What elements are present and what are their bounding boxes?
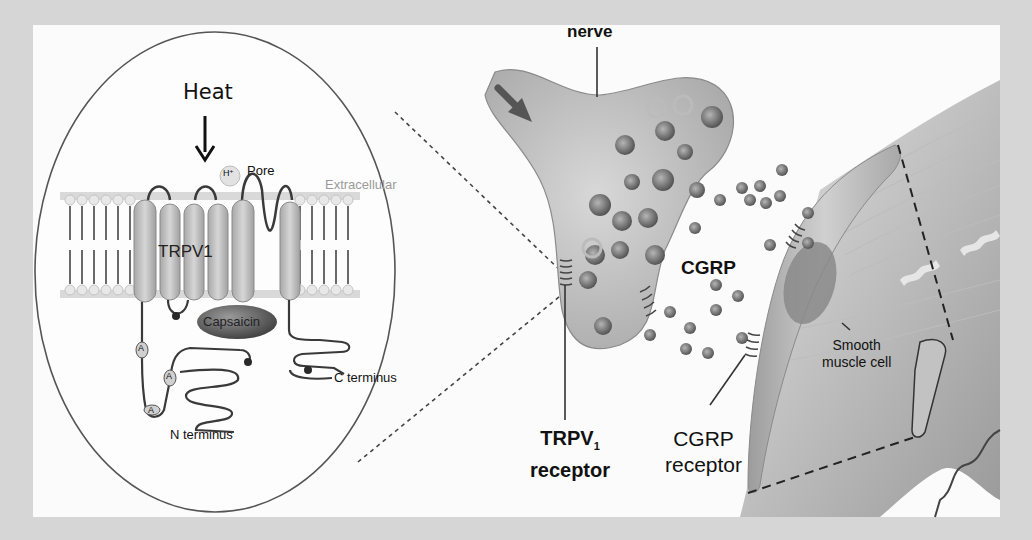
trpv1-receptor-subscript: 1 (594, 440, 600, 452)
capsaicin-label: Capsaicin (203, 314, 260, 329)
extracellular-label: Extracellular (325, 177, 397, 192)
ankyrin-label-2: A (166, 371, 172, 381)
smooth-muscle-label-line2: muscle cell (822, 354, 891, 370)
ankyrin-label-3: A (148, 405, 154, 415)
cgrp-label: CGRP (681, 257, 736, 279)
heat-label: Heat (183, 80, 233, 104)
proton-label: H⁺ (223, 168, 235, 178)
cgrp-receptor-label: CGRP receptor (665, 426, 742, 478)
trpv1-receptor-label-line1: TRPV (540, 427, 593, 449)
c-terminus-label: C terminus (334, 370, 397, 385)
cgrp-receptor-label-line1: CGRP (673, 427, 734, 450)
smooth-muscle-label-line1: Smooth (833, 337, 881, 353)
trpv1-receptor-label-line2: receptor (530, 459, 610, 481)
pore-label: Pore (247, 163, 274, 178)
ankyrin-label-1: A (138, 343, 144, 353)
n-terminus-label: N terminus (170, 427, 233, 442)
cgrp-receptor-label-line2: receptor (665, 453, 742, 476)
diagram-artwork (0, 0, 1032, 540)
smooth-muscle-cell-label: Smooth muscle cell (822, 337, 891, 371)
nerve-label: nerve (567, 22, 612, 42)
trpv1-receptor-label: TRPV1 receptor (530, 426, 610, 482)
trpv1-channel-label: TRPV1 (158, 242, 213, 262)
